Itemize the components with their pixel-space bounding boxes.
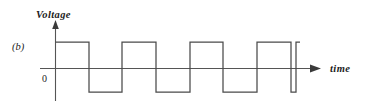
y-axis	[52, 20, 59, 101]
x-axis-label: time	[330, 63, 350, 74]
origin-label: 0	[42, 73, 47, 84]
waveform-figure: Voltage time (b) 0	[0, 0, 368, 112]
x-axis-arrowhead-icon	[310, 65, 321, 73]
square-wave-trace	[56, 42, 301, 92]
y-axis-arrowhead-icon	[52, 20, 59, 29]
waveform-diagram: Voltage time (b) 0	[0, 0, 368, 112]
panel-label: (b)	[12, 41, 25, 53]
x-axis	[40, 65, 321, 73]
y-axis-label: Voltage	[36, 9, 71, 20]
